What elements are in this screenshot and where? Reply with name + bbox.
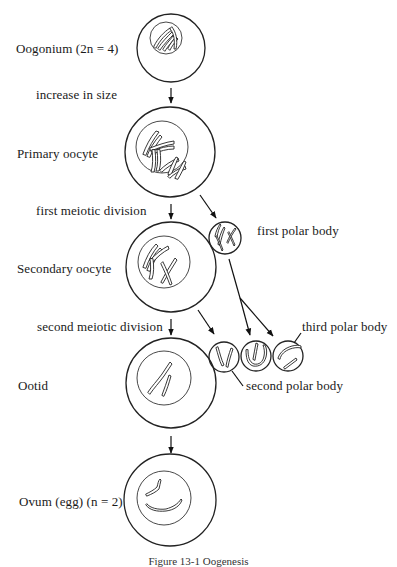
first-polar-body-cell	[209, 222, 241, 254]
primary-oocyte-cell	[125, 107, 215, 197]
oogonium-cell	[137, 14, 205, 82]
oogonium-chromosomes	[154, 27, 178, 51]
label-primary-oocyte: Primary oocyte	[17, 147, 98, 160]
arrow-to-first-polar-body	[200, 195, 216, 218]
label-increase-in-size: increase in size	[36, 88, 117, 101]
label-oogonium: Oogonium (2n = 4)	[16, 42, 119, 55]
third-polar-body-cell	[273, 341, 303, 371]
third-polar-body-leader	[294, 333, 301, 343]
label-ootid: Ootid	[18, 379, 48, 392]
label-first-polar-body: first polar body	[257, 224, 339, 237]
ovum-cell	[124, 454, 216, 546]
arrow-to-second-polar-body	[198, 310, 214, 334]
label-first-meiotic-division: first meiotic division	[36, 204, 147, 217]
arrow-first-polar-stem	[229, 259, 240, 298]
label-second-meiotic-division: second meiotic division	[37, 320, 163, 333]
polar-body-2-cell	[241, 341, 271, 371]
figure-caption: Figure 13-1 Oogenesis	[0, 555, 397, 567]
second-polar-body-cell	[209, 342, 239, 372]
second-polar-body-leader	[232, 371, 243, 386]
secondary-oocyte-chromosomes	[143, 244, 177, 285]
label-secondary-oocyte: Secondary oocyte	[17, 262, 111, 275]
ootid-cell	[126, 338, 216, 428]
primary-oocyte-chromosomes	[143, 131, 186, 179]
label-second-polar-body: second polar body	[246, 379, 343, 392]
label-ovum: Ovum (egg) (n = 2)	[19, 495, 123, 508]
secondary-oocyte-cell	[126, 222, 216, 312]
label-third-polar-body: third polar body	[302, 320, 387, 333]
